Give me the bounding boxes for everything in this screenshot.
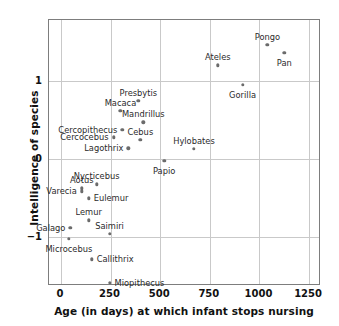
data-point-label: Pongo <box>255 33 280 41</box>
data-point-marker <box>90 258 93 261</box>
data-point-marker <box>192 147 195 150</box>
data-point-marker <box>241 83 244 86</box>
data-point-label: Ateles <box>205 53 231 61</box>
data-point-label: Eulemur <box>94 194 129 202</box>
data-point-marker <box>139 138 142 141</box>
gridline-vertical <box>160 20 161 284</box>
data-point-label: Cercocebus <box>60 133 108 141</box>
data-point-marker <box>283 51 286 54</box>
data-point-marker <box>266 43 269 46</box>
data-point-label: Gorilla <box>229 91 256 99</box>
plot-area: PongoPanAtelesGorillaPresbytisMacacaMand… <box>48 19 320 285</box>
gridline-horizontal <box>49 159 319 160</box>
data-point-marker <box>112 136 115 139</box>
data-point-marker <box>137 99 140 102</box>
data-point-marker <box>69 226 72 229</box>
gridline-horizontal <box>49 237 319 238</box>
data-point-marker <box>87 219 90 222</box>
x-tick-label: 0 <box>56 288 63 299</box>
data-point-marker <box>67 237 70 240</box>
data-point-label: Lemur <box>76 208 102 216</box>
x-tick-label: 1000 <box>245 288 273 299</box>
data-point-label: Mandrillus <box>122 110 165 118</box>
data-point-label: Microcebus <box>45 245 92 253</box>
data-point-label: Saimiri <box>95 221 124 229</box>
x-tick-label: 1250 <box>294 288 322 299</box>
data-point-marker <box>142 121 145 124</box>
data-point-marker <box>95 183 98 186</box>
x-tick-label: 750 <box>198 288 219 299</box>
data-point-label: Miopithecus <box>115 279 165 287</box>
data-point-marker <box>87 197 90 200</box>
data-point-label: Lagothrix <box>84 144 123 152</box>
data-point-label: Macaca <box>105 98 137 106</box>
gridline-horizontal <box>49 81 319 82</box>
data-point-label: Varecia <box>46 187 76 195</box>
data-point-label: Aotus <box>70 176 93 184</box>
data-point-marker <box>121 128 124 131</box>
data-point-marker <box>80 190 83 193</box>
gridline-vertical <box>259 20 260 284</box>
data-point-marker <box>216 64 219 67</box>
x-tick-label: 500 <box>149 288 170 299</box>
data-point-marker <box>162 159 165 162</box>
data-point-label: Papio <box>153 166 175 174</box>
gridline-vertical <box>309 20 310 284</box>
data-point-label: Hylobates <box>173 137 215 145</box>
x-axis-title: Age (in days) at which infant stops nurs… <box>48 305 320 317</box>
x-tick-label: 250 <box>99 288 120 299</box>
scatter-plot-figure: Intelligence of species PongoPanAtelesGo… <box>0 0 339 326</box>
y-tick-label: 0 <box>16 153 42 164</box>
data-point-label: Cebus <box>127 127 153 135</box>
y-tick-label: 1 <box>16 75 42 86</box>
data-point-marker <box>108 281 111 284</box>
y-tick-label: −1 <box>16 231 42 242</box>
data-point-label: Presbytis <box>120 88 158 96</box>
data-point-marker <box>127 147 130 150</box>
data-point-label: Pan <box>277 59 292 67</box>
data-point-label: Callithrix <box>97 255 134 263</box>
